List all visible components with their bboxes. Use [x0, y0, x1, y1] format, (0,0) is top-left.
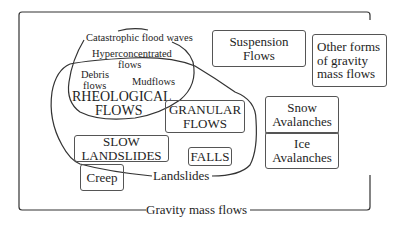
hyperconcentrated-label-2: flows — [118, 59, 141, 70]
falls-label: FALLS — [191, 150, 230, 164]
slow-line-2: LANDSLIDES — [81, 148, 161, 163]
creep-label: Creep — [86, 171, 117, 185]
other-forms-box: Other formsof gravitymass flows — [312, 34, 387, 87]
outer-frame-bottom-right — [250, 175, 370, 210]
catastrophic-arc — [118, 29, 148, 31]
granular-line-2: FLOWS — [183, 116, 227, 131]
falls-box: FALLS — [188, 147, 232, 166]
hyperconcentrated-label-1: Hyperconcentrated — [92, 48, 172, 59]
landslides-label: Landslides — [153, 169, 209, 183]
snow-line-2: Avalanches — [272, 114, 332, 129]
catastrophic-label: Catastrophic flood waves — [86, 32, 193, 43]
ice-line-2: Avalanches — [272, 150, 332, 165]
gravity-mass-flows-label: Gravity mass flows — [146, 203, 247, 217]
rheological-title-2: FLOWS — [95, 104, 142, 119]
debris-label-1: Debris — [81, 69, 109, 80]
ice-avalanches-box: IceAvalanches — [265, 132, 339, 169]
snow-avalanches-box: SnowAvalanches — [265, 96, 339, 134]
mudflows-label: Mudflows — [132, 76, 175, 87]
other-line-3: mass flows — [317, 66, 375, 81]
granular-flows-box: GRANULARFLOWS — [165, 100, 245, 133]
suspension-flows-box: SuspensionFlows — [212, 30, 306, 67]
creep-box: Creep — [80, 164, 124, 191]
slow-landslides-box: SLOWLANDSLIDES — [74, 135, 169, 162]
suspension-line-2: Flows — [243, 48, 275, 63]
